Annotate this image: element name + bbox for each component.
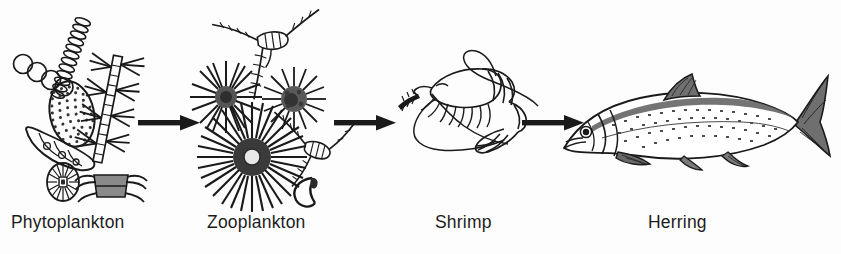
zooplankton-illustration (182, 2, 352, 207)
label-shrimp: Shrimp (435, 212, 492, 233)
food-chain-diagram: Phytoplankton Zooplankton Shrimp Herring (0, 0, 841, 254)
phytoplankton-illustration (6, 4, 176, 204)
herring-icon (564, 74, 830, 170)
shrimp-icon (398, 50, 538, 152)
label-zooplankton: Zooplankton (207, 212, 306, 233)
arrow-zooplankton-to-shrimp (334, 113, 396, 133)
circle-chain-colony-icon (14, 55, 74, 97)
small-radiolarian-right-icon (262, 67, 326, 131)
radial-wheel-diatom-icon (47, 163, 79, 201)
crescent-larva-icon (294, 178, 317, 207)
label-herring: Herring (648, 212, 707, 233)
barbed-chain-diatom-icon (71, 48, 146, 167)
large-radiolarian-icon (197, 102, 307, 212)
barrel-setae-diatom-icon (75, 175, 147, 202)
label-phytoplankton: Phytoplankton (11, 212, 125, 233)
herring-illustration (552, 52, 837, 202)
shrimp-antennule (398, 89, 420, 111)
